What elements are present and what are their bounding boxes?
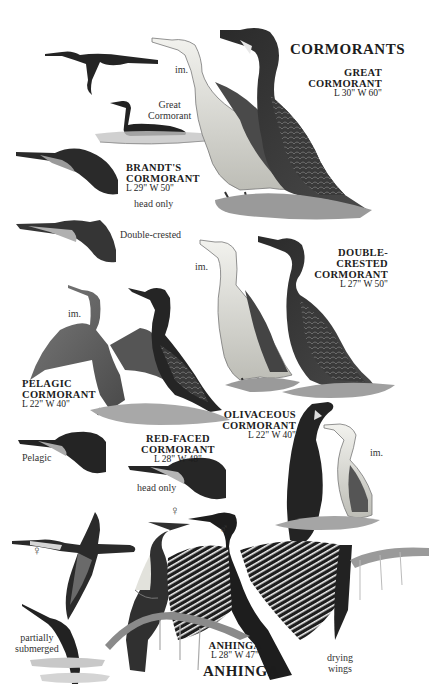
- great-immature-label: im.: [175, 65, 188, 76]
- flying-cormorant-illustration: [45, 51, 158, 95]
- pelagic-label: PELAGIC CORMORANT L 22" W 40": [22, 378, 96, 410]
- double-crested-immature-illustration: [200, 240, 292, 388]
- species-measurement: L 22" W 40": [22, 400, 96, 410]
- species-name: BRANDT'S: [126, 162, 200, 173]
- brandts-head-illustration: [16, 149, 118, 195]
- brandts-label: BRANDT'S CORMORANT L 29" W 50" head only: [126, 162, 200, 210]
- species-name: PELAGIC: [22, 378, 96, 389]
- olivaceous-immature-label: im.: [370, 448, 383, 459]
- caption-note: head only: [134, 199, 200, 210]
- section-title: CORMORANTS: [290, 42, 405, 58]
- species-measurement: L 27" W 50": [314, 280, 388, 290]
- anhinga-label: ANHINGA L 28" W 47": [204, 640, 266, 661]
- drying-wings-label: drying wings: [327, 653, 353, 674]
- olivaceous-immature-illustration: [324, 424, 372, 518]
- caption-line: partially: [15, 633, 59, 644]
- species-measurement: L 30" W 60": [308, 89, 382, 99]
- double-crested-immature-label: im.: [195, 262, 208, 273]
- footer-title: ANHINGA: [203, 664, 279, 680]
- anhinga-female-flying-illustration: [12, 512, 135, 620]
- great-swimming-label: Great Cormorant: [148, 100, 191, 121]
- pelagic-immature-label: im.: [68, 309, 81, 320]
- rock-illustration: [225, 378, 300, 392]
- species-name: CRESTED: [314, 258, 388, 269]
- caption-line: wings: [327, 664, 353, 675]
- female-symbol: ♀: [170, 504, 180, 518]
- species-name: DOUBLE-: [314, 247, 388, 258]
- female-symbol: ♀: [32, 544, 42, 558]
- double-crested-label: DOUBLE- CRESTED CORMORANT L 27" W 50": [314, 247, 388, 290]
- partially-submerged-label: partially submerged: [15, 633, 59, 654]
- double-crested-head-illustration: [16, 220, 116, 262]
- caption-line: drying: [327, 653, 353, 664]
- species-name: GREAT: [308, 67, 382, 78]
- species-name: OLIVACEOUS: [222, 409, 296, 420]
- species-measurement: L 29" W 50": [126, 184, 200, 194]
- pelagic-head-label: Pelagic: [22, 453, 51, 464]
- red-faced-label: RED-FACED CORMORANT L 28" W 48": [108, 433, 248, 465]
- illustration-plate: [0, 0, 429, 694]
- species-measurement: L 28" W 47": [204, 651, 266, 661]
- great-cormorant-label: GREAT CORMORANT L 30" W 60": [308, 67, 382, 99]
- red-faced-note: head only: [137, 483, 176, 494]
- double-crested-head-label: Double-crested: [120, 230, 181, 241]
- caption-line: submerged: [15, 644, 59, 655]
- male-symbol: ♂: [219, 522, 229, 536]
- species-name: RED-FACED CORMORANT: [108, 433, 248, 455]
- caption-line: Cormorant: [148, 111, 191, 122]
- rock-illustration: [282, 383, 395, 398]
- caption-line: Great: [148, 100, 191, 111]
- species-measurement: L 28" W 48": [108, 455, 248, 465]
